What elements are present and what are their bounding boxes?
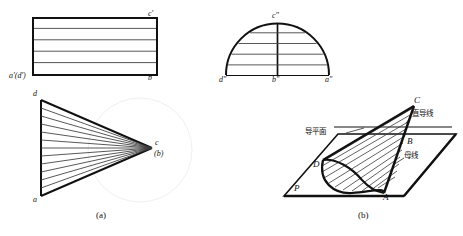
top-view-group [41,100,152,196]
pictorial-group [284,106,456,196]
caption-a: (a) [96,211,106,220]
annotation-generatrix: 母线 [404,152,418,160]
front-view-outline [33,18,157,75]
label-P: P [294,184,300,193]
top-view-generatrices [41,108,152,188]
technical-drawing-figure: c' a'(d') b' c" d" b" a" d a c (b) C B D… [0,0,463,236]
side-view-group [226,24,329,76]
label-B: B [407,137,413,146]
annotation-guide-plane: 导平面 [305,128,326,136]
label-a-prime-d-prime: a'(d') [9,72,26,80]
annotation-straight-directrix: 直导线 [412,110,433,118]
label-D: D [313,160,320,169]
label-c: c [155,139,159,147]
label-d: d [33,90,37,98]
label-A: A [383,193,389,202]
guide-plane-leader [346,128,364,133]
label-b-double-prime: b" [272,76,279,84]
figure-canvas [0,0,463,236]
label-a: a [33,196,37,204]
label-b-prime: b' [148,74,154,82]
point-B-marker [403,134,406,137]
label-c-prime: c' [148,10,153,18]
label-C: C [414,96,420,105]
label-a-double-prime: a" [325,76,332,84]
front-view-group [33,18,157,75]
label-c-double-prime: c" [272,12,279,20]
label-d-double-prime: d" [219,76,226,84]
caption-b: (b) [358,211,369,220]
label-b-parenthesised: (b) [154,150,163,158]
